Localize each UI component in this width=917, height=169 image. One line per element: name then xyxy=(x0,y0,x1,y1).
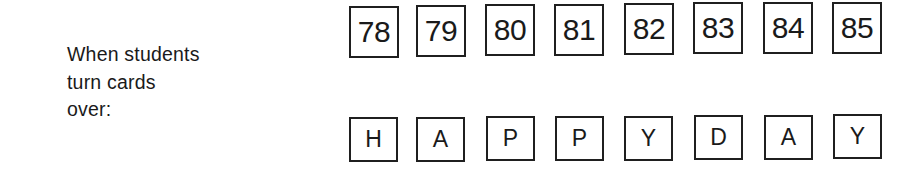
letter-card: P xyxy=(486,116,535,161)
number-card: 80 xyxy=(485,4,535,56)
letter-card: D xyxy=(694,115,743,160)
letter-card: H xyxy=(349,117,398,162)
letter-card: P xyxy=(555,116,604,161)
instruction-line: turn cards xyxy=(67,69,200,97)
number-card: 81 xyxy=(554,4,604,56)
card-numbers-row: 78 79 80 81 82 83 84 85 xyxy=(0,4,917,60)
number-card: 78 xyxy=(349,6,399,58)
letter-card: Y xyxy=(833,114,882,159)
letter-card: Y xyxy=(624,116,673,161)
letter-card: A xyxy=(416,117,465,162)
number-card: 82 xyxy=(624,3,674,55)
number-card: 83 xyxy=(693,2,743,54)
number-card: 85 xyxy=(832,2,882,54)
number-card: 79 xyxy=(416,5,466,57)
number-card: 84 xyxy=(763,2,813,54)
letter-card: A xyxy=(764,115,813,160)
card-letters-row: H A P P Y D A Y xyxy=(0,114,917,162)
